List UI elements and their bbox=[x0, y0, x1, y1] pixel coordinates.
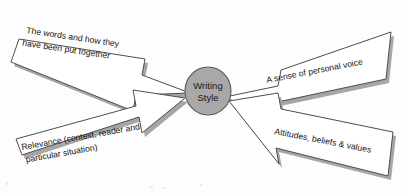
diagram-canvas: The words and how they have been put tog… bbox=[0, 0, 406, 195]
hub-node-writing-style[interactable]: Writing Style bbox=[185, 67, 231, 115]
writing-style-spider-diagram: The words and how they have been put tog… bbox=[0, 0, 406, 195]
hub-ellipse bbox=[185, 67, 231, 115]
branch-arrow-bottom-right[interactable]: Attitudes, beliefs & values bbox=[229, 93, 396, 180]
hub-label-line2: Style bbox=[197, 92, 218, 103]
hub-label-line1: Writing bbox=[193, 80, 222, 91]
